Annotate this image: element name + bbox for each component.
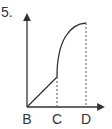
- label-b: B: [20, 111, 34, 127]
- segment-b-c: [27, 77, 57, 107]
- curve-c-d: [57, 23, 86, 77]
- graph-diagram: [0, 0, 112, 129]
- label-d: D: [79, 111, 93, 127]
- label-c: C: [50, 111, 64, 127]
